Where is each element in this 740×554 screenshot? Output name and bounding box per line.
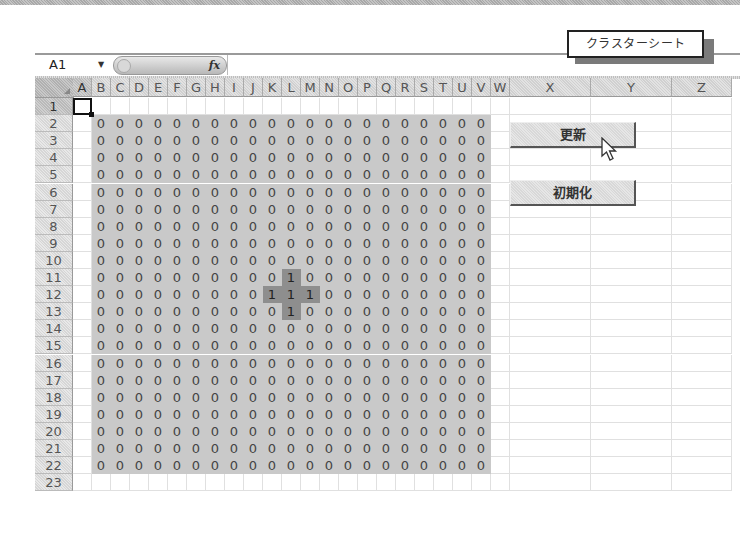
cell-A21[interactable]: [73, 440, 92, 457]
cell-B4[interactable]: 0: [92, 149, 111, 166]
row-header-1[interactable]: 1: [35, 98, 73, 115]
cell-M17[interactable]: 0: [301, 372, 320, 389]
cell-E1[interactable]: [149, 98, 168, 115]
cell-P8[interactable]: 0: [358, 218, 377, 235]
cell-Y16[interactable]: [591, 355, 672, 372]
cell-Y18[interactable]: [591, 389, 672, 406]
cell-E14[interactable]: 0: [149, 320, 168, 337]
cell-F18[interactable]: 0: [168, 389, 187, 406]
cell-Y8[interactable]: [591, 218, 672, 235]
cell-O4[interactable]: 0: [339, 149, 358, 166]
cell-E16[interactable]: 0: [149, 355, 168, 372]
cell-K11[interactable]: 0: [263, 269, 282, 286]
cell-O21[interactable]: 0: [339, 440, 358, 457]
cell-P6[interactable]: 0: [358, 184, 377, 201]
cell-F5[interactable]: 0: [168, 166, 187, 183]
cell-B14[interactable]: 0: [92, 320, 111, 337]
cell-Y1[interactable]: [591, 98, 672, 115]
cell-U16[interactable]: 0: [453, 355, 472, 372]
fill-handle[interactable]: [89, 112, 94, 117]
column-header-J[interactable]: J: [244, 78, 263, 97]
cell-B7[interactable]: 0: [92, 201, 111, 218]
cell-V3[interactable]: 0: [472, 132, 491, 149]
cell-S23[interactable]: [415, 474, 434, 491]
row-header-17[interactable]: 17: [35, 372, 73, 389]
cell-T14[interactable]: 0: [434, 320, 453, 337]
cell-R2[interactable]: 0: [396, 115, 415, 132]
cell-V10[interactable]: 0: [472, 252, 491, 269]
cell-L11[interactable]: 1: [282, 269, 301, 286]
cell-C12[interactable]: 0: [111, 286, 130, 303]
cell-F21[interactable]: 0: [168, 440, 187, 457]
cell-S22[interactable]: 0: [415, 457, 434, 474]
cell-J9[interactable]: 0: [244, 235, 263, 252]
cell-K10[interactable]: 0: [263, 252, 282, 269]
cell-S20[interactable]: 0: [415, 423, 434, 440]
cell-M6[interactable]: 0: [301, 184, 320, 201]
cell-H2[interactable]: 0: [206, 115, 225, 132]
cell-O15[interactable]: 0: [339, 337, 358, 354]
column-header-E[interactable]: E: [149, 78, 168, 97]
cell-G16[interactable]: 0: [187, 355, 206, 372]
cell-W20[interactable]: [491, 423, 510, 440]
cell-J17[interactable]: 0: [244, 372, 263, 389]
cell-X21[interactable]: [510, 440, 591, 457]
cell-E13[interactable]: 0: [149, 303, 168, 320]
cell-Z15[interactable]: [672, 337, 732, 354]
cell-T12[interactable]: 0: [434, 286, 453, 303]
cell-V14[interactable]: 0: [472, 320, 491, 337]
cell-U23[interactable]: [453, 474, 472, 491]
cell-T4[interactable]: 0: [434, 149, 453, 166]
cell-T11[interactable]: 0: [434, 269, 453, 286]
row-header-15[interactable]: 15: [35, 337, 73, 354]
cell-Q15[interactable]: 0: [377, 337, 396, 354]
cell-Q6[interactable]: 0: [377, 184, 396, 201]
cell-K20[interactable]: 0: [263, 423, 282, 440]
cell-S9[interactable]: 0: [415, 235, 434, 252]
cell-D15[interactable]: 0: [130, 337, 149, 354]
cell-S19[interactable]: 0: [415, 406, 434, 423]
cell-M13[interactable]: 0: [301, 303, 320, 320]
cell-M18[interactable]: 0: [301, 389, 320, 406]
cell-N7[interactable]: 0: [320, 201, 339, 218]
cell-A2[interactable]: [73, 115, 92, 132]
cell-I3[interactable]: 0: [225, 132, 244, 149]
cell-X12[interactable]: [510, 286, 591, 303]
column-header-C[interactable]: C: [111, 78, 130, 97]
cell-I15[interactable]: 0: [225, 337, 244, 354]
cell-K7[interactable]: 0: [263, 201, 282, 218]
cell-D22[interactable]: 0: [130, 457, 149, 474]
cell-K9[interactable]: 0: [263, 235, 282, 252]
cell-U7[interactable]: 0: [453, 201, 472, 218]
cell-R10[interactable]: 0: [396, 252, 415, 269]
cell-R16[interactable]: 0: [396, 355, 415, 372]
cell-G21[interactable]: 0: [187, 440, 206, 457]
cell-J13[interactable]: 0: [244, 303, 263, 320]
cell-Q22[interactable]: 0: [377, 457, 396, 474]
cell-Q19[interactable]: 0: [377, 406, 396, 423]
cell-D4[interactable]: 0: [130, 149, 149, 166]
cell-R22[interactable]: 0: [396, 457, 415, 474]
cell-U1[interactable]: [453, 98, 472, 115]
cell-E11[interactable]: 0: [149, 269, 168, 286]
cell-L14[interactable]: 0: [282, 320, 301, 337]
cell-N22[interactable]: 0: [320, 457, 339, 474]
column-header-Y[interactable]: Y: [591, 78, 672, 97]
cell-V2[interactable]: 0: [472, 115, 491, 132]
cell-K13[interactable]: 0: [263, 303, 282, 320]
cell-X10[interactable]: [510, 252, 591, 269]
cell-U2[interactable]: 0: [453, 115, 472, 132]
cell-X9[interactable]: [510, 235, 591, 252]
cell-E15[interactable]: 0: [149, 337, 168, 354]
row-header-10[interactable]: 10: [35, 252, 73, 269]
cell-U17[interactable]: 0: [453, 372, 472, 389]
row-header-21[interactable]: 21: [35, 440, 73, 457]
cell-S1[interactable]: [415, 98, 434, 115]
cell-E7[interactable]: 0: [149, 201, 168, 218]
cell-G9[interactable]: 0: [187, 235, 206, 252]
cell-H18[interactable]: 0: [206, 389, 225, 406]
cell-F16[interactable]: 0: [168, 355, 187, 372]
row-header-3[interactable]: 3: [35, 132, 73, 149]
cell-E5[interactable]: 0: [149, 166, 168, 183]
cell-Z20[interactable]: [672, 423, 732, 440]
